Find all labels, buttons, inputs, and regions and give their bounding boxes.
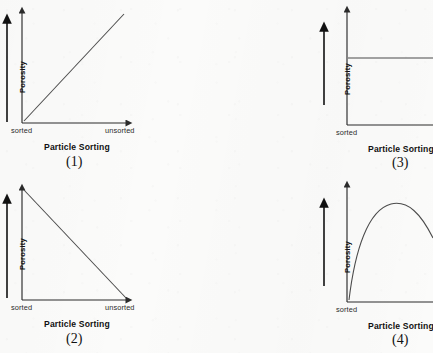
x-tick-left-3: sorted — [336, 128, 357, 137]
y-axis-label-4: Porosity — [343, 241, 352, 273]
panel-number-2: (2) — [66, 331, 82, 347]
x-axis-title-3: Particle Sorting — [368, 144, 433, 154]
chart-panel-3: Porosity sorted Particle Sorting (3) — [216, 0, 433, 176]
data-line-2 — [24, 190, 126, 298]
x-tick-left-2: sorted — [11, 303, 32, 312]
x-tick-right-1: unsorted — [105, 126, 135, 135]
data-line-1 — [24, 14, 124, 121]
x-axis-title-1: Particle Sorting — [44, 142, 110, 152]
chart-panel-2: Porosity sorted unsorted Particle Sortin… — [0, 176, 216, 353]
y-axis-label-2: Porosity — [18, 238, 27, 270]
x-tick-left-4: sorted — [336, 305, 357, 314]
data-curve-4 — [349, 203, 433, 300]
panel-number-4: (4) — [392, 332, 408, 348]
chart-panel-4: Porosity sorted Particle Sorting (4) — [216, 176, 433, 353]
chart-panel-1: Porosity sorted unsorted Particle Sortin… — [0, 0, 216, 176]
x-axis-title-2: Particle Sorting — [44, 319, 110, 329]
y-axis-label-3: Porosity — [343, 63, 352, 95]
panel-number-1: (1) — [66, 154, 82, 170]
panel-number-3: (3) — [392, 155, 408, 171]
x-axis-title-4: Particle Sorting — [368, 321, 433, 331]
x-tick-right-2: unsorted — [105, 303, 135, 312]
x-tick-left-1: sorted — [11, 126, 32, 135]
y-axis-label-1: Porosity — [18, 61, 27, 93]
